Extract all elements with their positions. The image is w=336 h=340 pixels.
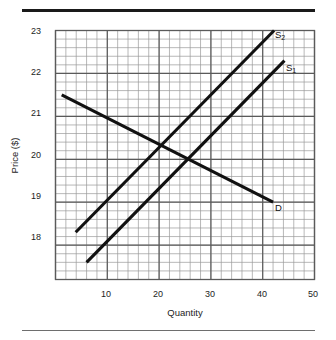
curve-label-s2-subscript: 2 [281,34,285,41]
bottom-divider-rule [22,330,315,331]
curve-label-d-text: D [275,202,282,213]
x-tick-label-50: 50 [301,289,325,299]
curves [62,31,285,263]
y-tick-label-23: 23 [19,26,41,36]
y-tick-label-22: 22 [19,67,41,77]
curve-label-s2: S2 [275,29,285,41]
y-tick-label-19: 19 [19,191,41,201]
x-tick-label-20: 20 [146,289,170,299]
x-tick-label-30: 30 [198,289,222,299]
x-tick-label-40: 40 [250,289,274,299]
x-axis-title: Quantity [150,307,220,318]
economics-supply-demand-figure: 23 22 21 20 19 18 10 20 30 40 50 Price (… [0,0,336,340]
y-tick-label-21: 21 [19,108,41,118]
curve-d [62,95,273,202]
y-axis-title: Price ($) [9,126,20,186]
x-tick-label-10: 10 [94,289,118,299]
y-tick-label-18: 18 [19,232,41,242]
y-tick-label-20: 20 [19,150,41,160]
curve-label-s1: S1 [286,62,296,74]
curve-label-d: D [275,202,282,213]
curve-label-s1-subscript: 1 [292,67,296,74]
